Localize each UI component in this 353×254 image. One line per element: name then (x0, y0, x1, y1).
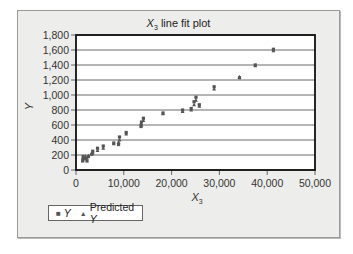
y-tick-label: 200 (51, 149, 69, 161)
y-tick-label: 1,600 (43, 44, 69, 56)
legend-label-y: Y (64, 207, 71, 219)
x-tick-label: 20,000 (156, 177, 188, 189)
y-marker (85, 159, 88, 162)
x-tick-label: 30,000 (203, 177, 235, 189)
x-tick-label: 10,000 (108, 177, 140, 189)
y-axis-title: Y (23, 102, 35, 110)
y-tick-label: 1,000 (43, 89, 69, 101)
y-tick-label: 800 (51, 104, 69, 116)
y-tick-label: 0 (63, 164, 69, 176)
y-tick-label: 400 (51, 134, 69, 146)
y-tick-label: 600 (51, 119, 69, 131)
x-axis-title: X3 (191, 191, 203, 205)
legend: ■ Y ▲ Predicted Y (48, 205, 143, 221)
square-marker-icon: ■ (56, 209, 61, 218)
triangle-marker-icon: ▲ (80, 210, 87, 217)
y-tick-label: 1,200 (43, 74, 69, 86)
legend-label-predicted: Predicted Y (90, 201, 142, 225)
legend-label-predicted-text: Predicted Y (90, 201, 134, 225)
x-tick-label: 0 (73, 177, 79, 189)
x-tick-label: 50,000 (299, 177, 331, 189)
x-tick-label: 40,000 (251, 177, 283, 189)
y-tick-label: 1,800 (43, 29, 69, 41)
y-tick-label: 1,400 (43, 59, 69, 71)
